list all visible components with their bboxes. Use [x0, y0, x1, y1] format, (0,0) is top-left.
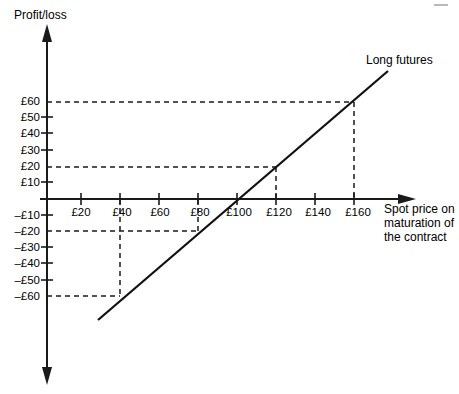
x-axis — [40, 194, 416, 204]
x-axis-arrow-right-icon — [398, 194, 416, 204]
y-axis — [42, 24, 52, 385]
y-axis-arrow-down-icon — [42, 367, 52, 385]
series-leader-line — [362, 68, 372, 82]
series-line-long-futures — [98, 71, 388, 320]
y-axis-arrow-up-icon — [42, 24, 52, 42]
